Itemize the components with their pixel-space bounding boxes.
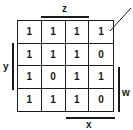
kmap-cell: 0: [42, 66, 66, 89]
kmap-cell: 1: [18, 89, 42, 112]
kmap-cell: 1: [66, 21, 90, 44]
kmap-cell: 0: [89, 89, 113, 112]
kmap-cell: 1: [89, 21, 113, 44]
kmap-cell: 1: [42, 21, 66, 44]
kmap-cell: 1: [42, 89, 66, 112]
karnaugh-map: 1 1 1 1 1 1 1 0 1 0 1 1 1 1 1 0: [17, 20, 114, 112]
kmap-cell: 1: [66, 66, 90, 89]
kmap-cell: 0: [89, 44, 113, 67]
kmap-cell: 1: [18, 44, 42, 67]
kmap-cell: 1: [18, 21, 42, 44]
kmap-cell: 1: [89, 66, 113, 89]
kmap-cell: 1: [42, 44, 66, 67]
kmap-cell: 1: [66, 44, 90, 67]
kmap-cell: 1: [18, 66, 42, 89]
kmap-cell: 1: [66, 89, 90, 112]
